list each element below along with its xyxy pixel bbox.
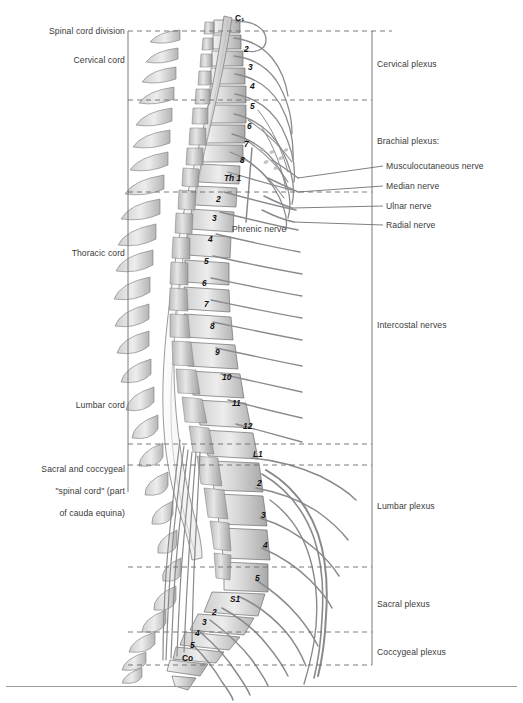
leader-musculocutaneous [298,166,383,178]
label-intercostal-nerves: Intercostal nerves [377,320,447,331]
label-lumbar-plexus: Lumbar plexus [377,501,435,512]
segment-label-th6: 6 [202,278,207,288]
label-sacral-coccygeal-cord: Sacral and coccygeal "spinal cord" (part… [14,453,125,530]
segment-label-c8: 8 [240,155,245,165]
segment-label-th1: Th 1 [224,173,241,183]
segment-label-th8: 8 [210,321,215,331]
segment-label-s3: 3 [202,617,207,627]
leader-ulnar [292,206,383,208]
label-ulnar-nerve: Ulnar nerve [386,201,432,212]
brachial-leader-lines [292,166,383,225]
segment-label-c3: 3 [248,62,253,72]
label-musculocutaneous-nerve: Musculocutaneous nerve [386,161,484,172]
segment-label-th11: 11 [232,398,241,408]
label-spinal-cord-division: Spinal cord division [27,26,125,37]
segment-label-l1: L1 [253,449,263,459]
spinal-cord-figure: Spinal cord division Cervical cord Thora… [0,0,523,703]
segment-label-th5: 5 [204,256,209,266]
label-radial-nerve: Radial nerve [386,220,435,231]
segment-label-th12: 12 [243,421,252,431]
label-cervical-plexus: Cervical plexus [377,59,437,70]
leader-radial [294,222,383,225]
segment-label-c7: 7 [244,139,249,149]
segment-label-s4: 4 [195,628,200,638]
label-thoracic-cord: Thoracic cord [50,248,125,259]
segment-label-c6: 6 [247,121,252,131]
segment-label-th4: 4 [208,234,213,244]
label-sacral-line-2: "spinal cord" (part [55,486,125,496]
division-lines [128,31,392,665]
segment-label-l3: 3 [261,510,266,520]
segment-label-c5: 5 [250,101,255,111]
segment-label-s5: 5 [190,640,195,650]
leader-median [298,186,383,192]
label-brachial-plexus: Brachial plexus: [377,136,439,147]
label-median-nerve: Median nerve [386,181,439,192]
segment-label-th2: 2 [216,194,221,204]
segment-label-c1: C₁ [235,13,245,23]
segment-label-s2: 2 [212,607,217,617]
label-sacral-plexus: Sacral plexus [377,599,430,610]
segment-label-th9: 9 [215,347,220,357]
segment-label-co: Co [182,653,193,663]
label-lumbar-cord: Lumbar cord [54,400,125,411]
segment-label-th10: 10 [222,372,231,382]
figure-footer-rule [6,686,517,687]
segment-label-c2: 2 [244,44,249,54]
segment-label-l5: 5 [255,573,260,583]
segment-label-c4: 4 [250,81,255,91]
label-sacral-line-1: Sacral and coccygeal [41,464,125,474]
segment-label-l4: 4 [263,540,268,550]
segment-label-th7: 7 [204,299,209,309]
label-sacral-line-3: of cauda equina) [59,508,125,518]
label-phrenic-nerve: Phrenic nerve [232,224,286,235]
segment-label-s1: S1 [230,594,240,604]
segment-label-th3: 3 [212,213,217,223]
annotation-layer [0,0,523,703]
label-coccygeal-plexus: Coccygeal plexus [377,647,446,658]
segment-label-l2: 2 [257,478,262,488]
label-cervical-cord: Cervical cord [51,55,125,66]
